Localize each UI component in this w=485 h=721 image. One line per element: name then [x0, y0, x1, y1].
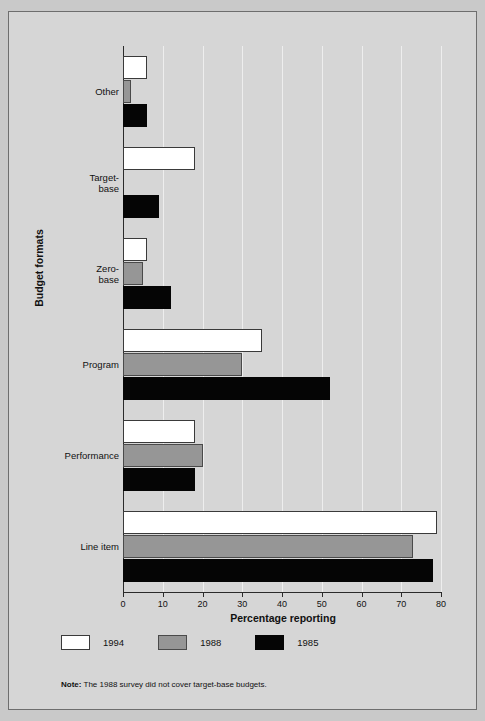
bar-line-item-1994 — [123, 511, 437, 534]
category-label-line: Zero- — [0, 263, 119, 274]
category-label-performance: Performance — [0, 450, 119, 461]
chart-note: Note: The 1988 survey did not cover targ… — [61, 680, 267, 689]
legend-swatch-1985 — [255, 635, 284, 650]
plot-area: 01020304050607080 OtherTarget-baseZero-b… — [123, 46, 441, 592]
legend-item-1994[interactable]: 1994 — [61, 635, 124, 650]
legend-swatch-1988 — [158, 635, 187, 650]
bar-other-1985 — [123, 104, 147, 127]
x-tick-label-70: 70 — [386, 599, 416, 609]
bar-performance-1985 — [123, 468, 195, 491]
x-tick-70 — [401, 592, 402, 597]
x-tick-80 — [441, 592, 442, 597]
legend-item-1985[interactable]: 1985 — [255, 635, 318, 650]
bar-target-base-1985 — [123, 195, 159, 218]
legend-label-1994: 1994 — [103, 637, 124, 648]
category-label-line: Line item — [0, 541, 119, 552]
category-label-line: Program — [0, 359, 119, 370]
category-label-line: base — [0, 274, 119, 285]
category-label-target-base: Target-base — [0, 172, 119, 194]
category-label-program: Program — [0, 359, 119, 370]
bar-performance-1994 — [123, 420, 195, 443]
x-tick-0 — [123, 592, 124, 597]
x-tick-label-10: 10 — [148, 599, 178, 609]
bar-other-1994 — [123, 56, 147, 79]
bar-performance-1988 — [123, 444, 203, 467]
legend-item-1988[interactable]: 1988 — [158, 635, 221, 650]
bar-program-1985 — [123, 377, 330, 400]
note-body: The 1988 survey did not cover target-bas… — [81, 680, 266, 689]
x-tick-50 — [322, 592, 323, 597]
x-tick-10 — [163, 592, 164, 597]
x-tick-label-80: 80 — [426, 599, 456, 609]
x-tick-label-20: 20 — [188, 599, 218, 609]
category-label-line: Other — [0, 86, 119, 97]
legend-label-1988: 1988 — [200, 637, 221, 648]
legend-label-1985: 1985 — [297, 637, 318, 648]
gridline-80 — [441, 46, 442, 592]
x-tick-60 — [362, 592, 363, 597]
note-label: Note: — [61, 680, 81, 689]
category-label-line: base — [0, 183, 119, 194]
chart-figure: 01020304050607080 OtherTarget-baseZero-b… — [8, 11, 477, 710]
x-tick-label-60: 60 — [347, 599, 377, 609]
category-label-other: Other — [0, 86, 119, 97]
category-label-line: Target- — [0, 172, 119, 183]
y-axis-title: Budget formats — [33, 198, 45, 338]
bar-program-1994 — [123, 329, 262, 352]
x-tick-label-40: 40 — [267, 599, 297, 609]
legend: 199419881985 — [61, 635, 352, 650]
x-tick-40 — [282, 592, 283, 597]
x-tick-label-30: 30 — [227, 599, 257, 609]
bar-target-base-1994 — [123, 147, 195, 170]
legend-swatch-1994 — [61, 635, 90, 650]
bar-zero-base-1994 — [123, 238, 147, 261]
category-label-line: Performance — [0, 450, 119, 461]
bar-line-item-1988 — [123, 535, 413, 558]
x-axis-title: Percentage reporting — [123, 612, 443, 624]
bar-program-1988 — [123, 353, 242, 376]
bar-other-1988 — [123, 80, 131, 103]
x-tick-20 — [203, 592, 204, 597]
category-label-zero-base: Zero-base — [0, 263, 119, 285]
x-tick-30 — [242, 592, 243, 597]
bar-zero-base-1988 — [123, 262, 143, 285]
category-label-line-item: Line item — [0, 541, 119, 552]
bar-line-item-1985 — [123, 559, 433, 582]
x-tick-label-50: 50 — [307, 599, 337, 609]
bar-zero-base-1985 — [123, 286, 171, 309]
x-tick-label-0: 0 — [108, 599, 138, 609]
